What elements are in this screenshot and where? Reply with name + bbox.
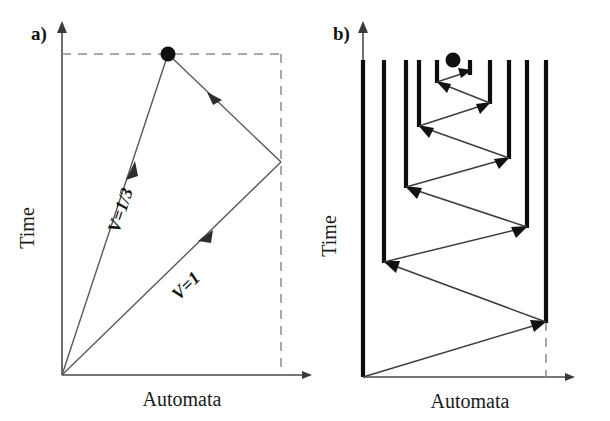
panel-a-x-axis-label: Automata [143,388,222,410]
panel-b-y-axis-label-group: Time [318,215,340,257]
panel-b-signal-up-4 [406,187,527,227]
panel-a-label: a) [31,23,47,45]
panel-b-signal-up-7-arrow-icon [476,102,491,114]
panel-b-signals [363,68,547,377]
panel-a-axes [57,21,312,379]
panel-b-signal-collision-dot [446,53,461,68]
panel-b-signal-up-4-arrow-icon [405,186,422,199]
panel-a-ray-v-one-arrow-icon [198,230,213,243]
panel-b: b) [318,21,575,412]
panel-a-signal-collision-dot [161,47,176,62]
panel-a-speed-label-fast-group: V=1 [168,268,204,304]
panel-a-y-axis-label: Time [16,207,38,249]
panel-b-signal-up-3-arrow-icon [511,226,528,238]
panel-b-signal-up-5-arrow-icon [494,157,510,169]
panel-b-signal-up-2 [384,262,546,322]
spacetime-diagram-svg: a) [0,0,610,421]
panel-a: a) [16,21,312,410]
panel-b-signal-up-5 [406,158,509,187]
panel-a-guides [62,54,281,375]
panel-b-y-axis-label: Time [318,215,340,257]
figure-root: a) [0,0,610,421]
panel-b-axes [358,21,575,381]
panel-a-ray-v-one [62,162,281,375]
panel-a-y-axis-label-group: Time [16,207,38,249]
panel-b-label: b) [333,23,350,45]
panel-a-ray-return [168,54,281,162]
panel-b-y-axis-arrow-icon [358,21,368,33]
panel-a-x-axis-arrow-icon [302,371,312,379]
panel-b-x-axis-arrow-icon [565,373,575,381]
panel-b-signal-up-6-arrow-icon [418,125,434,138]
panel-a-speed-label-slow: V=1/3 [104,185,137,234]
panel-b-signal-up-3 [384,227,527,262]
panel-a-y-axis-arrow-icon [57,21,67,33]
panel-b-signal-up-8-arrow-icon [436,81,451,93]
panel-a-speed-label-slow-group: V=1/3 [104,185,137,234]
panel-b-signal-up-1 [363,322,546,377]
panel-a-speed-label-fast: V=1 [168,268,204,304]
panel-b-signal-up-2-arrow-icon [383,261,400,273]
panel-b-worldlines [363,60,546,377]
panel-a-rays [62,54,281,375]
panel-b-x-axis-label: Automata [431,390,510,412]
